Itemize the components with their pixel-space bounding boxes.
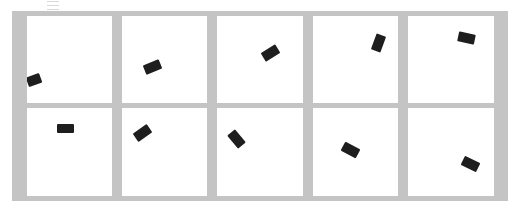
block-object xyxy=(57,124,74,133)
menu-icon-line xyxy=(47,9,59,10)
block-object xyxy=(371,33,386,52)
frame-cell-10 xyxy=(408,108,494,196)
frame-sequence-view xyxy=(0,0,518,212)
frame-cell-7 xyxy=(122,108,207,196)
block-object xyxy=(461,156,481,172)
frame-cell-4 xyxy=(313,16,398,103)
frame-cell-6 xyxy=(27,108,112,196)
frame-grid xyxy=(12,11,508,201)
menu-icon-line xyxy=(47,5,59,6)
frame-cell-8 xyxy=(217,108,303,196)
block-object xyxy=(27,73,42,87)
block-object xyxy=(227,129,246,148)
frame-cell-2 xyxy=(122,16,207,103)
block-object xyxy=(341,142,361,159)
frame-cell-1 xyxy=(27,16,112,103)
block-object xyxy=(133,124,153,142)
frame-cell-3 xyxy=(217,16,303,103)
frame-cell-5 xyxy=(408,16,494,103)
block-object xyxy=(457,31,476,44)
block-object xyxy=(143,59,163,75)
menu-icon-line xyxy=(47,1,59,2)
frame-cell-9 xyxy=(313,108,398,196)
menu-icon[interactable] xyxy=(47,1,59,10)
block-object xyxy=(261,44,281,61)
